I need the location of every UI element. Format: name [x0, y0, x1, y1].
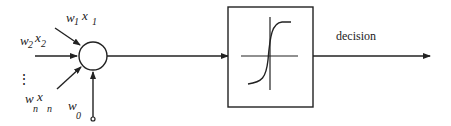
bias-terminal: [91, 117, 95, 121]
summation-node: [79, 42, 107, 70]
bias-label: w0: [68, 98, 81, 121]
input-label-n: wnxn: [25, 89, 52, 114]
input-label-2: w2x2: [20, 30, 46, 50]
decision-label: decision: [336, 29, 376, 43]
input-ellipsis: ⋮: [17, 72, 31, 87]
input-label-1: w1x1: [66, 8, 97, 27]
input-arrow-n: [57, 67, 81, 89]
input-arrow-1: [55, 28, 80, 45]
perceptron-diagram: w1x1 w2x2 ⋮ wnxn w0 decision: [0, 0, 451, 126]
